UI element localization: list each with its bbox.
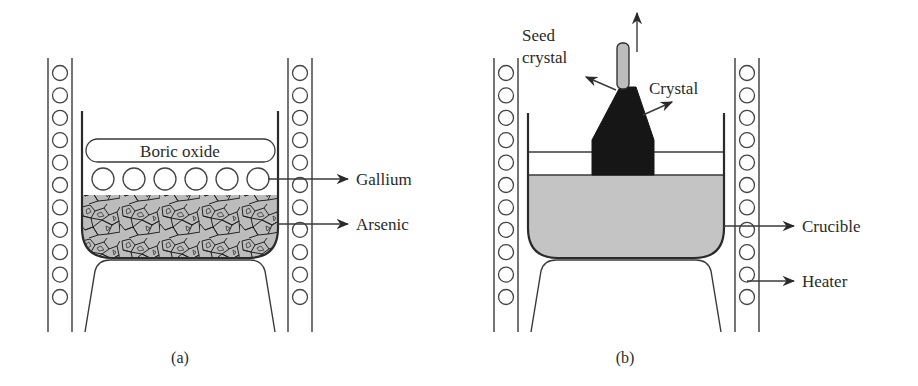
crucible-support-a [85,260,275,332]
crystal-label: Crystal [649,79,698,98]
seed-crystal-arrow-icon [586,77,616,90]
panel-b-caption: (b) [616,349,635,367]
gallium-beads [92,168,269,190]
gaas-melt [528,175,724,258]
seed-crystal-label-line1: Seed [522,26,556,45]
heater-coils-icon [499,66,514,305]
arsenic-label: Arsenic [356,215,409,234]
heater-left-b [494,58,518,332]
crucible-support-b [531,260,721,332]
heater-coils-icon [53,66,68,305]
crystal-arrow-icon [643,102,672,115]
panel-a: Boric oxide Gallium Arsenic (a) [48,58,412,367]
heater-right-b [735,58,759,332]
panel-b: Seed crystal Crystal Crucible Heater (b) [494,13,861,367]
heater-coils-icon [293,66,308,305]
arsenic-charge [82,195,278,258]
seed-crystal-label-line2: crystal [522,48,568,67]
heater-coils-icon [740,66,755,305]
seed-crystal [617,43,629,89]
crucible-label: Crucible [802,217,861,236]
lec-crystal-growth-diagram: Boric oxide Gallium Arsenic (a) [0,0,918,386]
gallium-label: Gallium [356,170,412,189]
heater-left-a [48,58,72,332]
panel-a-caption: (a) [171,349,189,367]
crystal-boule [592,87,654,175]
heater-right-a [288,58,312,332]
heater-label: Heater [802,272,848,291]
boric-oxide-label: Boric oxide [140,142,220,161]
